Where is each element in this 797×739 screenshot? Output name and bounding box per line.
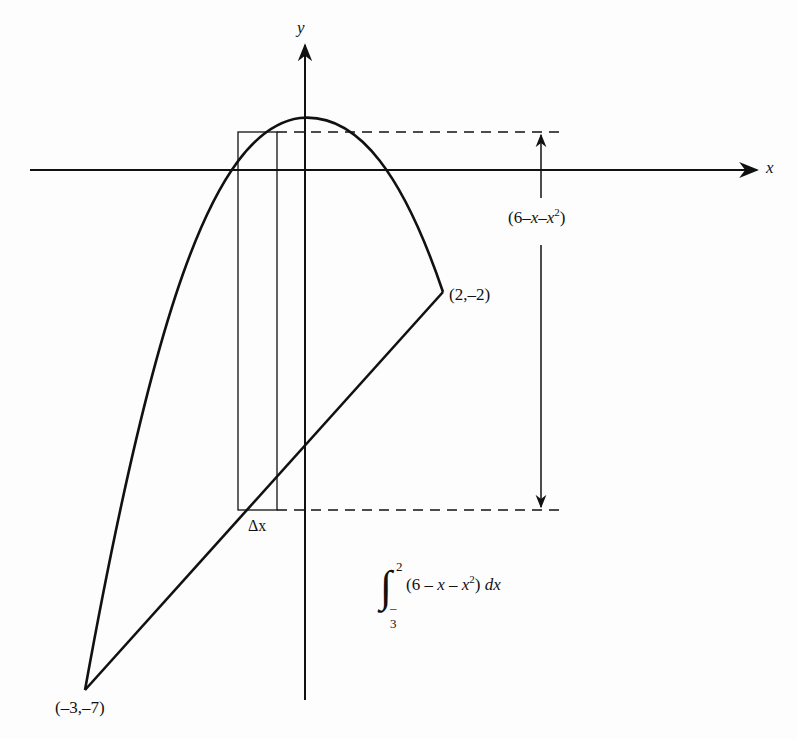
integrand-minus: –	[445, 575, 462, 594]
y-axis-label: y	[297, 18, 305, 38]
point-label-right: (2,–2)	[449, 285, 490, 305]
area-between-curves-diagram: y x (6–x–x2) (2,–2) (–3,–7) Δx ∫ 2 –3 (6…	[0, 0, 797, 739]
representative-rectangle	[238, 132, 277, 510]
integral-upper-limit: 2	[396, 559, 403, 575]
point-label-left: (–3,–7)	[55, 698, 105, 718]
delta-x-label: Δx	[248, 517, 266, 535]
height-label-open: (6–	[508, 208, 531, 227]
integrand-x1: x	[437, 575, 445, 594]
integrand-open: (6 –	[406, 575, 437, 594]
integrand: (6 – x – x2) dx	[406, 575, 501, 595]
integrand-dx: dx	[485, 575, 501, 594]
x-axis-label: x	[766, 158, 774, 178]
height-label-close: )	[560, 208, 566, 227]
integral-lower-limit: –3	[390, 600, 397, 632]
diagram-canvas	[0, 0, 797, 739]
height-label-dash: –	[538, 208, 547, 227]
height-label: (6–x–x2)	[508, 208, 565, 228]
integrand-close: )	[475, 575, 485, 594]
